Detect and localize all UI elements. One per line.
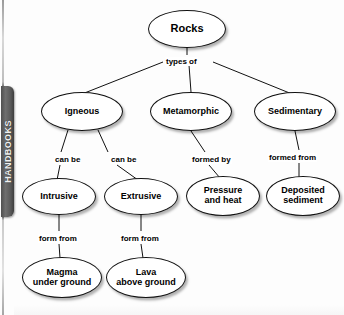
edge-label-form-from-magma: form from <box>38 234 78 243</box>
node-label-extrusive: Extrusive <box>117 192 166 202</box>
edge-types-of-to-metamorphic <box>189 65 191 92</box>
edge-label-formed-by: formed by <box>191 155 232 164</box>
node-sedimentary: Sedimentary <box>254 92 336 131</box>
node-deposited-sediment: Depositedsediment <box>266 176 340 216</box>
edge-form-from-magma-to-magma-under-ground <box>59 244 60 258</box>
node-rocks: Rocks <box>148 10 226 48</box>
edge-types-of-to-igneous <box>82 62 163 94</box>
scanned-page: HANDBOOKS RocksIgneousMetamorphicSedimen… <box>0 0 344 315</box>
node-magma-under-ground: Magmaunder ground <box>22 257 102 298</box>
edge-igneous-to-can-be-right <box>98 130 108 152</box>
rocks-concept-map: RocksIgneousMetamorphicSedimentaryIntrus… <box>0 0 344 315</box>
edge-types-of-to-sedimentary <box>213 62 292 94</box>
node-label-magma-under-ground: Magmaunder ground <box>29 268 96 287</box>
edge-label-can-be-left: can be <box>54 155 81 164</box>
edge-sedimentary-to-formed-from <box>295 131 299 150</box>
node-label-lava-above-ground: Lavaabove ground <box>112 268 180 287</box>
node-label-deposited-sediment: Depositedsediment <box>277 186 329 205</box>
edge-metamorphic-to-formed-by <box>191 131 205 152</box>
node-intrusive: Intrusive <box>22 178 96 215</box>
node-pressure-and-heat: Pressureand heat <box>186 176 260 216</box>
node-extrusive: Extrusive <box>104 178 178 215</box>
edge-igneous-to-can-be-left <box>61 130 68 152</box>
edge-label-formed-from: formed from <box>268 153 317 162</box>
edge-label-form-from-lava: form from <box>120 234 160 243</box>
node-label-pressure-and-heat: Pressureand heat <box>200 186 247 205</box>
edge-label-can-be-right: can be <box>110 155 137 164</box>
edge-label-types-of: types of <box>165 57 198 66</box>
node-label-igneous: Igneous <box>61 107 104 117</box>
node-label-sedimentary: Sedimentary <box>264 107 326 117</box>
node-label-metamorphic: Metamorphic <box>159 107 223 117</box>
node-label-rocks: Rocks <box>166 23 207 35</box>
node-metamorphic: Metamorphic <box>150 92 232 131</box>
node-igneous: Igneous <box>41 92 123 131</box>
node-label-intrusive: Intrusive <box>36 192 82 202</box>
node-lava-above-ground: Lavaabove ground <box>106 257 186 298</box>
edge-form-from-lava-to-lava-above-ground <box>141 244 143 258</box>
